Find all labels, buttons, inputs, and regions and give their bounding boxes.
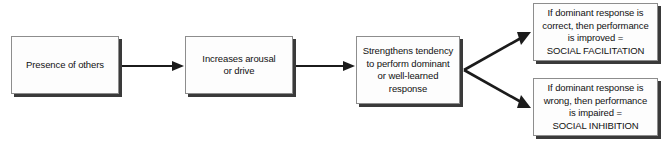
node-social-inhibition: If dominant response is wrong, then perf…	[533, 78, 658, 136]
node-presence-of-others: Presence of others	[11, 36, 119, 94]
node-social-inhibition-label: If dominant response is wrong, then perf…	[538, 82, 653, 132]
node-strengthens-tendency-label: Strengthens tendency to perform dominant…	[361, 45, 455, 95]
connector-tendency-to-facilitation	[464, 32, 531, 70]
node-social-facilitation: If dominant response is correct, then pe…	[533, 3, 658, 61]
node-social-facilitation-label: If dominant response is correct, then pe…	[538, 7, 653, 57]
connector-tendency-to-inhibition	[464, 70, 531, 108]
connector-arousal-to-tendency	[294, 61, 355, 71]
flowchart-diagram: Presence of others Increases arousal or …	[0, 0, 668, 147]
node-increases-arousal: Increases arousal or drive	[185, 36, 293, 94]
node-increases-arousal-label: Increases arousal or drive	[190, 53, 288, 78]
node-presence-of-others-label: Presence of others	[16, 59, 114, 72]
connector-presence-to-arousal	[120, 61, 184, 71]
node-strengthens-tendency: Strengthens tendency to perform dominant…	[356, 36, 460, 104]
